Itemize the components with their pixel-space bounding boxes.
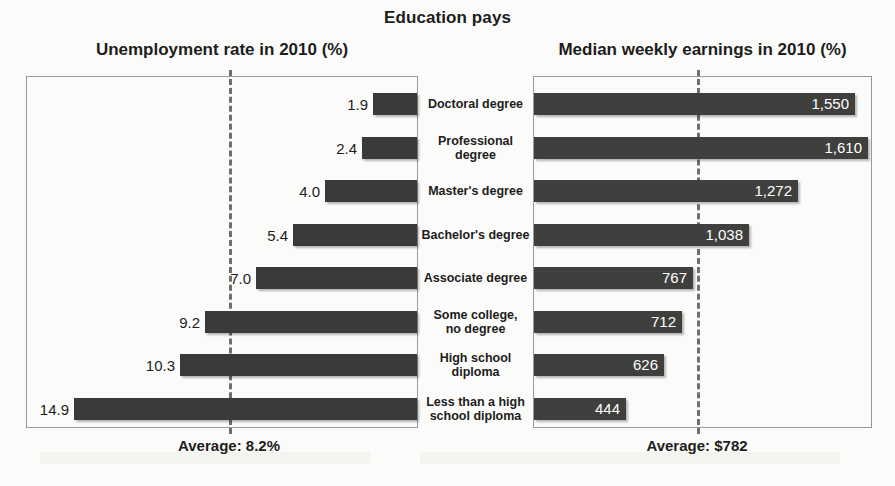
- earnings-cell: 1,272: [534, 169, 872, 213]
- unemployment-cell: 7.0: [26, 256, 417, 300]
- category-label-text: Bachelor's degree: [422, 228, 530, 242]
- average-label-earnings: Average: $782: [597, 437, 797, 454]
- earnings-value-label: 1,272: [754, 180, 792, 202]
- unemployment-bar: [362, 137, 417, 159]
- earnings-bar: 767: [534, 267, 693, 289]
- earnings-cell: 626: [534, 343, 872, 387]
- earnings-value-label: 626: [633, 354, 658, 376]
- unemployment-cell: 9.2: [26, 300, 417, 344]
- category-label: Master's degree: [420, 169, 531, 213]
- earnings-cell: 767: [534, 256, 872, 300]
- chart-row: 4.0Master's degree1,272: [0, 169, 895, 213]
- category-label: High schooldiploma: [420, 343, 531, 387]
- earnings-value-label: 1,610: [824, 137, 862, 159]
- unemployment-bar: [293, 224, 417, 246]
- left-panel-heading: Unemployment rate in 2010 (%): [26, 40, 418, 60]
- category-label-text: Associate degree: [424, 271, 528, 285]
- chart-row: 2.4Professional degree1,610: [0, 126, 895, 170]
- category-label-text: High schooldiploma: [440, 351, 512, 379]
- unemployment-bar: [256, 267, 417, 289]
- category-label: Bachelor's degree: [420, 213, 531, 257]
- chart-row: 10.3High schooldiploma626: [0, 343, 895, 387]
- earnings-bar: 712: [534, 311, 682, 333]
- earnings-bar: 444: [534, 398, 626, 420]
- category-label-text: Doctoral degree: [428, 97, 523, 111]
- earnings-bar: 626: [534, 354, 664, 376]
- category-label: Doctoral degree: [420, 82, 531, 126]
- unemployment-bar: [205, 311, 417, 333]
- earnings-value-label: 444: [595, 398, 620, 420]
- earnings-cell: 444: [534, 387, 872, 431]
- average-label-unemployment: Average: 8.2%: [129, 437, 329, 454]
- chart-row: 9.2Some college,no degree712: [0, 300, 895, 344]
- unemployment-value-label: 5.4: [267, 225, 293, 247]
- category-label: Less than a highschool diploma: [420, 387, 531, 431]
- earnings-cell: 1,610: [534, 126, 872, 170]
- right-panel-heading: Median weekly earnings in 2010 (%): [533, 40, 872, 60]
- category-label-text: Some college,no degree: [433, 308, 517, 336]
- earnings-cell: 1,550: [534, 82, 872, 126]
- unemployment-bar: [373, 93, 417, 115]
- unemployment-cell: 10.3: [26, 343, 417, 387]
- category-label: Associate degree: [420, 256, 531, 300]
- unemployment-value-label: 7.0: [230, 268, 256, 290]
- earnings-value-label: 1,038: [705, 224, 743, 246]
- unemployment-bar: [325, 180, 417, 202]
- earnings-value-label: 712: [651, 311, 676, 333]
- earnings-bar: 1,610: [534, 137, 868, 159]
- unemployment-value-label: 14.9: [40, 399, 74, 421]
- earnings-cell: 1,038: [534, 213, 872, 257]
- category-label: Some college,no degree: [420, 300, 531, 344]
- unemployment-value-label: 9.2: [179, 312, 205, 334]
- category-label-text: Less than a highschool diploma: [426, 395, 525, 423]
- category-label: Professional degree: [420, 126, 531, 170]
- unemployment-value-label: 2.4: [336, 138, 362, 160]
- earnings-bar: 1,272: [534, 180, 798, 202]
- chart-row: 14.9Less than a highschool diploma444: [0, 387, 895, 431]
- chart-title: Education pays: [0, 8, 895, 28]
- unemployment-cell: 2.4: [26, 126, 417, 170]
- unemployment-value-label: 1.9: [347, 94, 373, 116]
- chart-row: 5.4Bachelor's degree1,038: [0, 213, 895, 257]
- earnings-value-label: 1,550: [811, 93, 849, 115]
- chart-row: 7.0Associate degree767: [0, 256, 895, 300]
- unemployment-cell: 1.9: [26, 82, 417, 126]
- unemployment-cell: 4.0: [26, 169, 417, 213]
- category-label-text: Master's degree: [428, 184, 523, 198]
- category-label-text: Professional degree: [420, 134, 531, 162]
- unemployment-cell: 14.9: [26, 387, 417, 431]
- earnings-cell: 712: [534, 300, 872, 344]
- unemployment-value-label: 10.3: [146, 355, 180, 377]
- earnings-bar: 1,038: [534, 224, 749, 246]
- unemployment-bar: [74, 398, 417, 420]
- earnings-bar: 1,550: [534, 93, 855, 115]
- unemployment-cell: 5.4: [26, 213, 417, 257]
- chart-row: 1.9Doctoral degree1,550: [0, 82, 895, 126]
- chart-page: Education pays Unemployment rate in 2010…: [0, 0, 895, 486]
- unemployment-bar: [180, 354, 417, 376]
- unemployment-value-label: 4.0: [299, 181, 325, 203]
- earnings-value-label: 767: [662, 267, 687, 289]
